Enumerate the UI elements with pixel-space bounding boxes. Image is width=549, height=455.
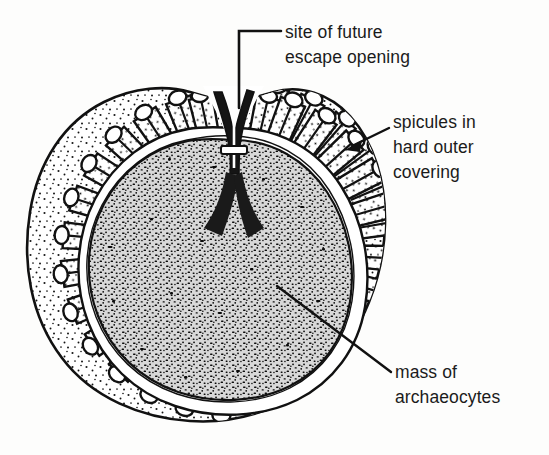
figure-canvas: site of future escape opening spicules i… xyxy=(0,0,549,455)
label-spicules-line1: spicules in xyxy=(393,110,476,135)
label-escape-opening-line2: escape opening xyxy=(285,45,410,70)
label-archaeocytes-line2: archaeocytes xyxy=(395,385,500,410)
label-archaeocytes-line1: mass of xyxy=(395,360,500,385)
label-escape-opening-line1: site of future xyxy=(285,20,410,45)
label-spicules: spicules in hard outer covering xyxy=(393,110,476,185)
label-spicules-line2: hard outer xyxy=(393,135,476,160)
mass-of-archaeocytes xyxy=(89,139,352,400)
label-spicules-line3: covering xyxy=(393,160,476,185)
label-escape-opening: site of future escape opening xyxy=(285,20,410,70)
label-archaeocytes: mass of archaeocytes xyxy=(395,360,500,410)
